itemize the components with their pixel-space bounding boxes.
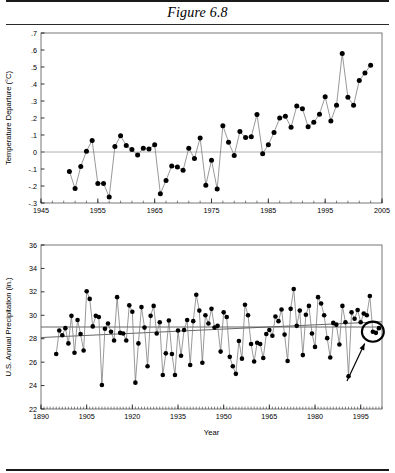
data-point bbox=[141, 146, 146, 151]
data-point bbox=[322, 313, 327, 318]
data-point bbox=[294, 104, 299, 109]
data-point bbox=[317, 112, 322, 117]
data-point bbox=[73, 186, 78, 191]
data-point bbox=[148, 314, 153, 319]
y-tick-label: -.1 bbox=[29, 165, 37, 174]
data-point bbox=[307, 304, 312, 309]
data-point bbox=[349, 310, 354, 315]
data-point bbox=[124, 143, 129, 148]
data-point bbox=[127, 303, 132, 308]
data-point bbox=[160, 373, 165, 378]
data-point bbox=[276, 319, 281, 324]
data-point bbox=[291, 287, 296, 292]
data-point bbox=[328, 355, 333, 360]
data-point bbox=[254, 112, 259, 117]
data-point bbox=[231, 364, 236, 369]
data-point bbox=[112, 144, 117, 149]
data-point bbox=[133, 380, 138, 385]
x-tick-label: 1995 bbox=[353, 412, 369, 421]
bottom-rule bbox=[6, 469, 389, 471]
data-point bbox=[181, 168, 186, 173]
data-point bbox=[343, 320, 348, 325]
annotation-arrow-head bbox=[360, 343, 365, 350]
data-point bbox=[118, 133, 123, 138]
data-point bbox=[220, 123, 225, 128]
data-point bbox=[285, 359, 290, 364]
figure-page: Figure 6.8 -.3-.2-.10.1.2.3.4.5.6.719451… bbox=[0, 0, 395, 473]
series-line bbox=[56, 289, 379, 385]
data-point bbox=[304, 312, 309, 317]
data-point bbox=[249, 134, 254, 139]
data-point bbox=[316, 295, 321, 300]
data-point bbox=[151, 304, 156, 309]
data-point bbox=[185, 318, 190, 323]
data-point bbox=[289, 125, 294, 130]
data-point bbox=[345, 95, 350, 100]
precipitation-chart: 2224262830323436189019051920193519501965… bbox=[0, 233, 395, 461]
data-point bbox=[142, 325, 147, 330]
data-point bbox=[246, 313, 251, 318]
data-point bbox=[175, 164, 180, 169]
data-point bbox=[374, 331, 379, 336]
data-point bbox=[54, 352, 59, 357]
data-point bbox=[301, 353, 306, 358]
data-point bbox=[218, 349, 223, 354]
y-tick-label: 36 bbox=[29, 241, 37, 250]
data-point bbox=[237, 129, 242, 134]
data-point bbox=[188, 363, 193, 368]
y-tick-label: .6 bbox=[31, 46, 37, 55]
data-point bbox=[279, 307, 284, 312]
data-point bbox=[66, 341, 71, 346]
data-point bbox=[357, 78, 362, 83]
data-point bbox=[176, 328, 181, 333]
data-point bbox=[221, 310, 226, 315]
data-point bbox=[191, 319, 196, 324]
data-point bbox=[60, 333, 65, 338]
x-tick-label: 1965 bbox=[147, 206, 163, 215]
data-point bbox=[129, 147, 134, 152]
data-point bbox=[69, 314, 74, 319]
data-point bbox=[300, 106, 305, 111]
data-point bbox=[164, 178, 169, 183]
charts-container: -.3-.2-.10.1.2.3.4.5.6.71945195519651975… bbox=[0, 25, 395, 461]
data-point bbox=[294, 324, 299, 329]
data-point bbox=[340, 51, 345, 56]
data-point bbox=[67, 169, 72, 174]
data-point bbox=[319, 301, 324, 306]
data-point bbox=[170, 352, 175, 357]
precipitation-chart-svg: 2224262830323436189019051920193519501965… bbox=[0, 233, 395, 461]
data-point bbox=[101, 181, 106, 186]
data-point bbox=[282, 332, 287, 337]
data-point bbox=[310, 331, 315, 336]
data-point bbox=[260, 151, 265, 156]
y-tick-label: 24 bbox=[29, 381, 37, 390]
y-axis-title: U.S. Annual Precipitation (in.) bbox=[4, 277, 13, 377]
data-point bbox=[115, 295, 120, 300]
data-point bbox=[227, 355, 232, 360]
data-point bbox=[209, 307, 214, 312]
data-point bbox=[261, 356, 266, 361]
data-point bbox=[182, 328, 187, 333]
data-point bbox=[121, 331, 126, 336]
data-point bbox=[358, 320, 363, 325]
data-point bbox=[362, 70, 367, 75]
x-tick-label: 1920 bbox=[124, 412, 140, 421]
data-point bbox=[81, 348, 86, 353]
data-point bbox=[351, 103, 356, 108]
x-tick-label: 1975 bbox=[204, 206, 220, 215]
data-point bbox=[355, 308, 360, 313]
data-point bbox=[232, 153, 237, 158]
x-tick-label: 1950 bbox=[216, 412, 232, 421]
y-tick-label: -.2 bbox=[29, 182, 37, 191]
x-tick-label: 1985 bbox=[260, 206, 276, 215]
y-tick-label: 32 bbox=[29, 287, 37, 296]
y-tick-label: 0 bbox=[33, 148, 37, 157]
data-point bbox=[277, 116, 282, 121]
data-point bbox=[146, 146, 151, 151]
temperature-chart: -.3-.2-.10.1.2.3.4.5.6.71945195519651975… bbox=[0, 25, 395, 233]
data-point bbox=[57, 328, 62, 333]
data-point bbox=[192, 156, 197, 161]
y-tick-label: 34 bbox=[29, 264, 37, 273]
plot-frame bbox=[41, 33, 382, 203]
data-point bbox=[283, 114, 288, 119]
